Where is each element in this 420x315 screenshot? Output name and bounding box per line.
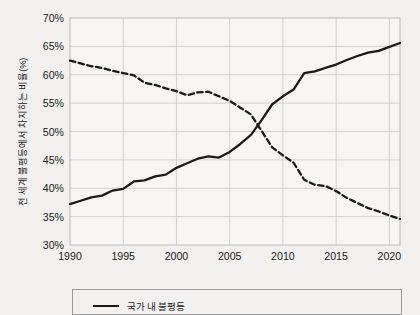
x-tick-label: 1995: [111, 250, 135, 262]
legend-line-swatch: [93, 305, 119, 307]
legend-item-within-country: 국가 내 불평등: [93, 299, 185, 313]
y-tick-label: 35%: [30, 211, 64, 223]
y-tick-label: 55%: [30, 97, 64, 109]
x-tick-label: 2005: [218, 250, 242, 262]
x-tick-label: 2010: [271, 250, 295, 262]
x-axis-ticks: 1990199520002005201020152020: [0, 250, 420, 266]
x-tick-label: 2000: [165, 250, 189, 262]
x-tick-label: 2015: [324, 250, 348, 262]
y-tick-label: 65%: [30, 40, 64, 52]
x-tick-label: 1990: [58, 250, 82, 262]
y-tick-label: 60%: [30, 69, 64, 81]
y-tick-label: 70%: [30, 12, 64, 24]
y-axis-ticks: 70%65%60%55%50%45%40%35%30%: [30, 0, 64, 313]
legend-item-label: 국가 내 불평등: [127, 299, 185, 313]
y-tick-label: 45%: [30, 154, 64, 166]
legend: 국가 내 불평등: [72, 289, 402, 315]
y-tick-label: 50%: [30, 126, 64, 138]
y-tick-label: 40%: [30, 182, 64, 194]
y-axis-label: 전 세계 불평등에서 차지하는 비율(%): [14, 8, 30, 256]
y-axis-label-text: 전 세계 불평등에서 차지하는 비율(%): [15, 58, 29, 207]
x-tick-label: 2020: [378, 250, 402, 262]
